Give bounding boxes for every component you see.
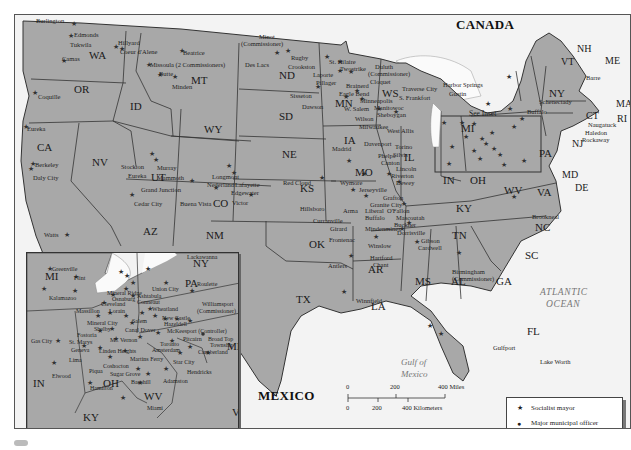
- city-madrid: Madrid: [332, 146, 351, 153]
- city-schenectady: Schenectady: [539, 99, 572, 106]
- city-minden: Minden: [172, 84, 192, 91]
- footer-mark: [14, 440, 28, 446]
- svg-text:★: ★: [485, 100, 491, 108]
- city-des-lacs: Des Lacs: [245, 62, 269, 69]
- inset-city-fostoria: Fostoria: [77, 332, 97, 338]
- svg-text:★: ★: [137, 333, 143, 340]
- svg-text:★: ★: [341, 288, 347, 296]
- svg-text:★: ★: [449, 143, 455, 151]
- inset-city-barnhill: Barnhill: [131, 379, 151, 385]
- inset-city-wheatland: Wheatland: [152, 306, 178, 312]
- state-TX: TX: [296, 294, 311, 305]
- city-cedar-city: Cedar City: [134, 201, 162, 208]
- svg-text:★: ★: [497, 151, 503, 159]
- city-burlington: Burlington: [36, 18, 64, 25]
- state-SD: SD: [279, 111, 293, 122]
- svg-text:★: ★: [471, 147, 477, 155]
- state-OK: OK: [309, 239, 325, 250]
- scale-miles-0: 0: [346, 383, 349, 390]
- inset-city-massillon: Massillon: [76, 308, 100, 314]
- state-ND: ND: [279, 70, 295, 81]
- city-laporte: Laporte: [313, 72, 333, 79]
- svg-text:★: ★: [28, 165, 34, 173]
- svg-text:★: ★: [511, 123, 517, 131]
- city-milwaukee: Milwaukee: [359, 124, 388, 131]
- city-victor: Victor: [232, 200, 248, 207]
- svg-text:★: ★: [483, 140, 489, 148]
- inset-city-cleveland: Cleveland: [101, 301, 125, 307]
- svg-text:★: ★: [145, 265, 151, 272]
- svg-text:★: ★: [477, 155, 483, 163]
- city-winslow: Winslow: [368, 243, 391, 250]
- svg-text:★: ★: [153, 156, 159, 164]
- city-watts: Watts: [44, 232, 59, 239]
- inset-city-hamilton: Hamilton: [90, 385, 113, 391]
- label-gulf-of: Gulf of: [401, 358, 426, 367]
- svg-text:★: ★: [129, 191, 135, 199]
- city-dewey: Dewey: [396, 180, 414, 187]
- inset-state-IN: IN: [33, 377, 45, 389]
- state-NV: NV: [92, 157, 108, 168]
- city-tukwila: Tukwila: [70, 42, 91, 49]
- city-winnfield: Winnfield: [356, 298, 382, 305]
- state-DE: DE: [575, 183, 588, 193]
- state-NM: NM: [206, 230, 224, 241]
- state-RI: RI: [617, 114, 627, 124]
- state-VT: VT: [561, 57, 574, 67]
- svg-text:★: ★: [274, 49, 280, 57]
- city-crookston: Crookston: [288, 64, 315, 71]
- svg-text:★: ★: [521, 157, 527, 165]
- city-coquille: Coquille: [38, 94, 60, 101]
- city-dorrisville: Dorrisville: [397, 230, 425, 237]
- svg-text:★: ★: [55, 337, 61, 344]
- svg-text:★: ★: [152, 312, 158, 319]
- city-mindenmines: Mindenmines: [365, 226, 401, 233]
- svg-text:★: ★: [506, 73, 512, 81]
- svg-text:★: ★: [130, 279, 136, 286]
- city-west-allis: West Allis: [387, 128, 414, 135]
- inset-city-star-city: Star City: [173, 359, 195, 365]
- city-lake-worth: Lake Worth: [540, 359, 571, 366]
- legend-star-icon: ★: [517, 405, 523, 412]
- svg-text:★: ★: [64, 231, 70, 239]
- state-NE: NE: [282, 149, 297, 160]
- svg-text:★: ★: [124, 272, 130, 279]
- inset-city-williamsport: Williamsport: [202, 301, 233, 307]
- inset-city-geneva: Geneva: [71, 347, 89, 353]
- city-brainerd: Brainerd: [346, 83, 369, 90]
- label-canada: CANADA: [456, 18, 514, 31]
- svg-text:★: ★: [507, 105, 513, 113]
- city-buffalo-mo: Buffalo: [365, 215, 385, 222]
- city-torino: Torino: [395, 144, 412, 151]
- city-murray: Murray: [157, 165, 177, 172]
- city-chant: Chant: [373, 262, 389, 269]
- city-mammoth: Mammoth: [157, 175, 184, 182]
- state-CO: CO: [213, 198, 228, 209]
- label-mexico-gulf: Mexico: [401, 370, 427, 379]
- inset-city-kalamazoo: Kalamazoo: [49, 295, 76, 301]
- inset-city-piqua: Piqua: [89, 368, 103, 374]
- state-NC: NC: [535, 222, 550, 233]
- svg-text:★: ★: [348, 252, 354, 260]
- scale-km-400: 400 Kilometers: [402, 404, 442, 411]
- city-antlers: Antlers: [328, 263, 347, 270]
- state-WY: WY: [204, 124, 222, 135]
- state-CA: CA: [37, 142, 52, 153]
- svg-text:★: ★: [51, 359, 57, 366]
- state-MT: MT: [191, 75, 208, 86]
- inset-city-sugar-grove: Sugar Grove: [110, 371, 141, 377]
- inset-city-coshocton: Coshocton: [103, 363, 129, 369]
- state-IN: IN: [443, 175, 455, 186]
- city-duluth-commissioner: (Commissioner): [368, 71, 410, 78]
- inset-state-KY: KY: [83, 411, 99, 423]
- city-nederland: Nederland: [207, 182, 234, 189]
- inset-city-linden-heights: Linden Heights: [99, 348, 136, 354]
- inset-city-williamsport-commissioner: (Commissioner): [197, 308, 236, 314]
- city-twostrike: Twostrike: [340, 66, 366, 73]
- svg-text:★: ★: [120, 394, 126, 401]
- state-NH: NH: [577, 44, 591, 54]
- city-wilson: Wilson: [355, 116, 374, 123]
- inset-city-broad-top-township: Township: [210, 342, 234, 348]
- svg-text:★: ★: [489, 129, 495, 137]
- city-girard: Girard: [330, 226, 347, 233]
